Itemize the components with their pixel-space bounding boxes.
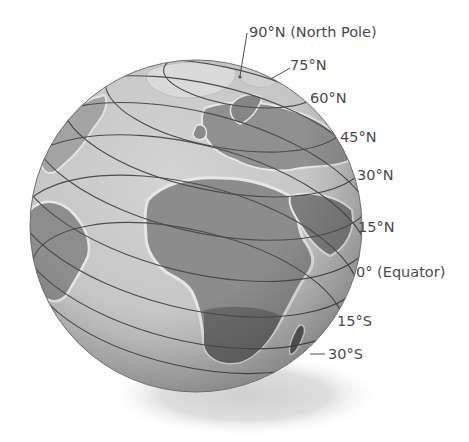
- label-90n: 90°N (North Pole): [249, 24, 377, 40]
- label-30s: 30°S: [328, 346, 363, 362]
- label-45n: 45°N: [340, 129, 377, 145]
- globe-latitude-diagram: 90°N (North Pole) 75°N 60°N 45°N 30°N 15…: [0, 0, 469, 442]
- globe-shading: [30, 60, 362, 392]
- label-75n: 75°N: [290, 57, 327, 73]
- label-15n: 15°N: [358, 219, 395, 235]
- label-30n: 30°N: [357, 167, 394, 183]
- label-60n: 60°N: [310, 90, 347, 106]
- label-equator: 0° (Equator): [356, 264, 445, 280]
- label-15s: 15°S: [337, 313, 372, 329]
- leader-75n: [271, 68, 290, 79]
